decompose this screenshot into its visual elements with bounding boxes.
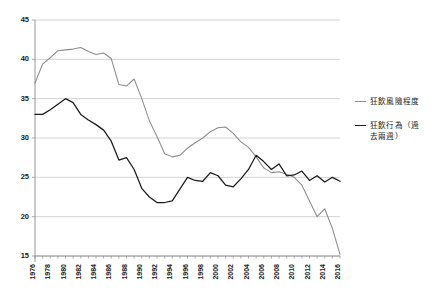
x-axis-tick-label: 1996: [182, 264, 189, 280]
x-axis-tick-label: 1990: [136, 264, 143, 280]
legend-label-behavior: 狂飲行為（過 去兩週）: [370, 120, 419, 142]
x-axis-tick-label: 1994: [166, 264, 173, 280]
x-axis-tick-label: 2016: [334, 264, 341, 280]
legend-swatch-behavior: [355, 125, 366, 126]
x-axis-tick-label: 2002: [227, 264, 234, 280]
x-axis-tick-label: 1980: [60, 264, 67, 280]
x-axis-tick-label: 2000: [212, 264, 219, 280]
y-axis-tick-label: 15: [21, 251, 29, 260]
x-axis-tick-label: 1988: [121, 264, 128, 280]
x-axis-tick-label: 2012: [304, 264, 311, 280]
legend-item-risk: 狂飲風險程度: [355, 96, 442, 107]
x-axis-tick-label: 2014: [319, 264, 326, 280]
x-axis-tick-label: 2010: [288, 264, 295, 280]
y-axis-tick-label: 45: [21, 15, 29, 24]
x-axis-tick-label: 1984: [90, 264, 97, 280]
series-line-risk: [35, 48, 340, 255]
x-axis-tick-label: 1992: [151, 264, 158, 280]
x-axis-tick-label: 2006: [258, 264, 265, 280]
y-axis-tick-label: 20: [21, 212, 29, 221]
x-axis-tick-label: 1978: [44, 264, 51, 280]
x-axis-tick-label: 1998: [197, 264, 204, 280]
x-axis-tick-label: 2008: [273, 264, 280, 280]
y-axis-tick-label: 30: [21, 133, 29, 142]
legend-swatch-risk: [355, 101, 366, 102]
x-axis-tick-label: 1986: [105, 264, 112, 280]
chart-legend: 狂飲風險程度 狂飲行為（過 去兩週）: [355, 96, 442, 155]
y-axis-tick-label: 35: [21, 94, 29, 103]
x-axis-tick-label: 2004: [243, 264, 250, 280]
series-line-behavior: [35, 99, 340, 203]
y-axis-tick-label: 40: [21, 54, 29, 63]
legend-label-risk: 狂飲風險程度: [370, 96, 419, 107]
y-axis-tick-label: 25: [21, 172, 29, 181]
x-axis-tick-label: 1976: [29, 264, 36, 280]
x-axis-tick-label: 1982: [75, 264, 82, 280]
chart-container: 1520253035404519761978198019821984198619…: [0, 0, 442, 304]
legend-item-behavior: 狂飲行為（過 去兩週）: [355, 120, 442, 142]
